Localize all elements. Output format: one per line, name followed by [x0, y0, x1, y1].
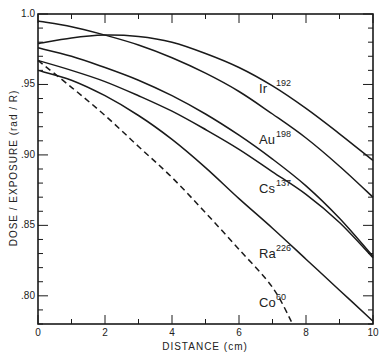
series-label-ir: Ir — [259, 81, 268, 96]
x-tick-label: 8 — [303, 327, 309, 338]
series-label-ra: Ra — [259, 246, 276, 261]
series-label-co: Co — [259, 295, 276, 310]
series-curves — [38, 21, 373, 324]
y-tick-label: .80 — [21, 290, 35, 301]
series-label-mass: 192 — [276, 78, 291, 88]
y-tick-label: .90 — [21, 149, 35, 160]
axes — [38, 14, 373, 324]
x-tick-label: 2 — [102, 327, 108, 338]
curve-ra226 — [38, 61, 373, 258]
series-label-mass: 60 — [276, 292, 286, 302]
x-tick-label: 6 — [236, 327, 242, 338]
x-axis-title: DISTANCE (cm) — [162, 341, 248, 352]
y-tick-label: 1.0 — [21, 8, 35, 19]
series-label-cs: Cs — [259, 181, 275, 196]
series-label-mass: 137 — [276, 178, 291, 188]
curve-ir192 — [38, 35, 373, 160]
series-label-au: Au — [259, 132, 275, 147]
x-tick-label: 10 — [367, 327, 379, 338]
y-tick-label: .85 — [21, 219, 35, 230]
plot-frame — [38, 14, 373, 324]
y-tick-label: .95 — [21, 78, 35, 89]
y-axis-title: DOSE / EXPOSURE (rad / R) — [8, 90, 19, 247]
x-tick-label: 0 — [35, 327, 41, 338]
curve-dashed-reference — [38, 61, 293, 325]
series-labels: Ir192Au198Cs137Ra226Co60 — [259, 78, 291, 310]
dose-exposure-chart: 02468101.0.95.90.85.80 Ir192Au198Cs137Ra… — [0, 0, 387, 356]
x-tick-label: 4 — [169, 327, 175, 338]
curve-co60 — [38, 70, 373, 321]
series-label-mass: 226 — [276, 243, 291, 253]
curve-au198 — [38, 21, 373, 197]
series-label-mass: 198 — [276, 129, 291, 139]
